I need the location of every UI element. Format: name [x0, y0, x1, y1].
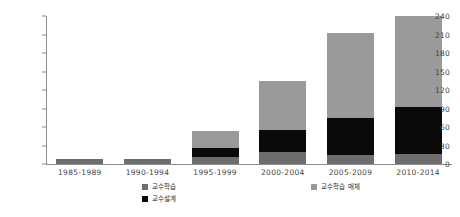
- x-axis-tick-group: 1985-19891990-19941995-19992000-20042005…: [46, 168, 452, 182]
- y-axis-tick-label: 150: [435, 67, 450, 76]
- legend-label: 교수학습 매체: [321, 184, 360, 191]
- legend-column-right: 교수학습 매체: [311, 182, 360, 194]
- bar-segment-learning: [259, 152, 306, 164]
- legend-label: 교수설계: [152, 196, 176, 203]
- stacked-bar-chart: 1985-19891990-19941995-19992000-20042005…: [0, 0, 460, 217]
- y-axis-tick-mark: [42, 108, 46, 109]
- y-axis-tick-mark: [42, 71, 46, 72]
- bar-group: [192, 131, 239, 164]
- bar-segment-design: [327, 118, 374, 155]
- bar-segment-media: [192, 131, 239, 148]
- bar-group: [327, 33, 374, 164]
- bar-segment-design: [192, 148, 239, 157]
- x-axis-tick-label: 1990-1994: [114, 168, 182, 177]
- bar-segment-media: [327, 33, 374, 117]
- bar-segment-learning: [395, 154, 442, 164]
- y-axis-tick-label: 180: [435, 49, 450, 58]
- y-axis-tick-mark: [42, 16, 46, 17]
- bar-segment-learning: [192, 157, 239, 164]
- x-axis-tick-label: 1995-1999: [181, 168, 249, 177]
- legend-swatch-learning: [142, 184, 148, 190]
- legend-swatch-media: [311, 184, 317, 190]
- bar-group: [56, 159, 103, 164]
- y-axis-tick-label: 90: [440, 104, 450, 113]
- x-axis-line: [46, 164, 452, 165]
- x-axis-tick-label: 1985-1989: [46, 168, 114, 177]
- bar-segment-learning: [327, 155, 374, 164]
- y-axis-tick-label: 30: [440, 141, 450, 150]
- bar-segment-design: [259, 130, 306, 152]
- bar-segment-learning: [56, 159, 103, 164]
- legend-swatch-design: [142, 196, 148, 202]
- bar-group: [124, 159, 171, 164]
- chart-legend: 교수학습교수설계 교수학습 매체: [0, 182, 460, 212]
- y-axis-tick-mark: [42, 145, 46, 146]
- y-axis-tick-mark: [42, 127, 46, 128]
- y-axis-tick-mark: [42, 34, 46, 35]
- legend-item[interactable]: 교수학습: [142, 182, 176, 192]
- y-axis-tick-label: 210: [435, 30, 450, 39]
- legend-column-left: 교수학습교수설계: [142, 182, 176, 206]
- legend-item[interactable]: 교수학습 매체: [311, 182, 360, 192]
- bar-segment-design: [395, 107, 442, 153]
- bar-group: [259, 81, 306, 164]
- y-axis-tick-label: 120: [435, 86, 450, 95]
- y-axis-tick-mark: [42, 53, 46, 54]
- bar-series-area: [46, 16, 452, 164]
- x-axis-tick-label: 2005-2009: [317, 168, 385, 177]
- legend-item[interactable]: 교수설계: [142, 194, 176, 204]
- y-axis-tick-label: 0: [445, 160, 450, 169]
- y-axis-tick-label: 60: [440, 123, 450, 132]
- x-axis-tick-label: 2000-2004: [249, 168, 317, 177]
- bar-segment-media: [259, 81, 306, 130]
- y-axis-tick-mark: [42, 90, 46, 91]
- legend-label: 교수학습: [152, 184, 176, 191]
- y-axis-tick-label: 240: [435, 12, 450, 21]
- bar-segment-learning: [124, 159, 171, 164]
- y-axis-tick-mark: [42, 164, 46, 165]
- x-axis-tick-label: 2010-2014: [384, 168, 452, 177]
